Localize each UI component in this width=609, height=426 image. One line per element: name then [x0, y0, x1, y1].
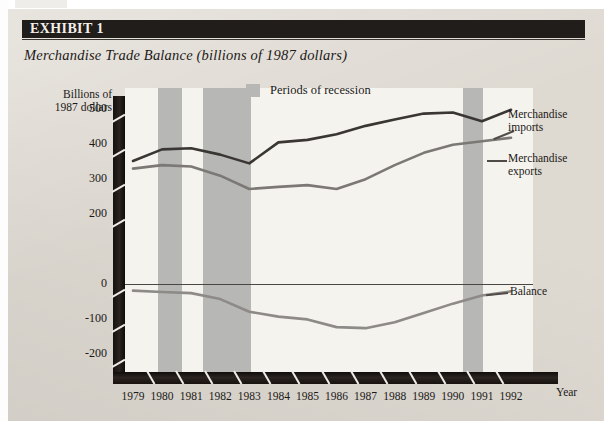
y-axis-tick-mark	[111, 149, 125, 158]
y-axis-tick-mark	[111, 219, 125, 228]
imports-annotation: Merchandise imports	[508, 108, 567, 134]
series-lines	[125, 88, 533, 372]
series-line	[133, 291, 511, 329]
series-line	[133, 110, 511, 164]
legend-recession-swatch	[246, 84, 260, 97]
x-axis-tick-mark	[233, 370, 242, 384]
x-axis-tick-mark	[146, 370, 155, 384]
imports-annotation-line2: imports	[508, 121, 567, 134]
exports-annotation: Merchandise exports	[508, 152, 567, 178]
x-axis-tick-mark	[321, 370, 330, 384]
x-axis-tick-mark	[466, 370, 475, 384]
y-axis-tick-mark	[111, 184, 125, 193]
x-axis-tick-mark	[204, 370, 213, 384]
y-axis-tick-mark	[111, 359, 125, 368]
series-line	[133, 138, 511, 189]
y-axis-tick-label: -200	[67, 346, 107, 361]
chart: Billions of 1987 dollars 5004003002000-1…	[0, 0, 609, 426]
x-axis-tick-mark	[263, 370, 272, 384]
x-axis-slab	[113, 372, 558, 384]
y-axis-tick-label: 300	[67, 171, 107, 186]
y-axis-tick-label: 0	[67, 276, 107, 291]
exports-annotation-line1: Merchandise	[508, 152, 567, 165]
x-axis-tick-mark	[175, 370, 184, 384]
x-axis-tick-mark	[408, 370, 417, 384]
x-axis-tick-mark	[292, 370, 301, 384]
y-axis-tick-label: 500	[67, 101, 107, 116]
x-axis-tick-label: 1992	[492, 390, 530, 402]
y-axis-tick-label: -100	[67, 311, 107, 326]
x-axis-tick-mark	[495, 370, 504, 384]
y-axis-tick-mark	[111, 114, 125, 123]
x-axis-tick-mark	[350, 370, 359, 384]
y-axis-slab	[113, 96, 125, 372]
x-axis-tick-mark	[437, 370, 446, 384]
x-axis-tick-mark	[379, 370, 388, 384]
y-axis-caption-line1: Billions of	[30, 88, 112, 101]
plot-area	[125, 88, 533, 372]
exports-annotation-line2: exports	[508, 165, 567, 178]
balance-annotation: Balance	[510, 285, 547, 298]
x-axis-caption: Year	[556, 386, 577, 398]
legend-recession-label: Periods of recession	[270, 83, 371, 98]
y-axis-tick-mark	[111, 289, 125, 298]
y-axis-tick-mark	[111, 324, 125, 333]
exhibit-page: EXHIBIT 1 Merchandise Trade Balance (bil…	[0, 0, 609, 426]
imports-annotation-line1: Merchandise	[508, 108, 567, 121]
y-axis-tick-label: 400	[67, 136, 107, 151]
exports-leader-line	[487, 160, 507, 162]
y-axis-tick-label: 200	[67, 206, 107, 221]
